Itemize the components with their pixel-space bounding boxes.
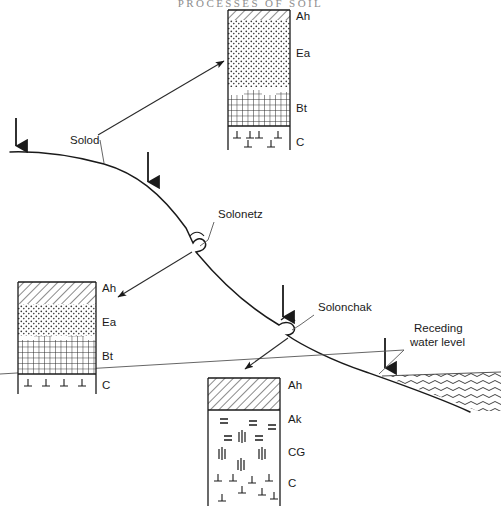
soil-catena-diagram: Solod Solonetz Solonchak Receding water … <box>0 0 501 518</box>
profile2-horizon-label-bt: Bt <box>102 350 114 362</box>
label-solonchak: Solonchak <box>318 301 372 313</box>
profile3-horizon-label-ak: Ak <box>288 413 302 425</box>
connector-to-solonchak-profile <box>245 338 288 369</box>
profile3-horizon-label-ah: Ah <box>288 379 302 391</box>
connector-to-solonetz-profile <box>118 252 192 297</box>
receding-water-body <box>382 372 501 411</box>
profile1-horizon-label-bt: Bt <box>296 102 308 114</box>
profile1-horizon-label-ea: Ea <box>296 47 311 59</box>
callout-lines <box>0 140 404 374</box>
profile2-horizon-label-c: C <box>102 379 110 391</box>
profile1-horizon-label-c: C <box>296 136 304 148</box>
profile-solod-upper: Ah Ea Bt C <box>228 10 311 150</box>
profile2-horizon-label-ah: Ah <box>102 282 116 294</box>
callout-solod <box>100 140 104 163</box>
profile2-horizon-label-ea: Ea <box>102 316 117 328</box>
connector-to-solod-profile <box>98 61 224 135</box>
profile-solonchak-lower: Ah Ak CG C <box>208 378 305 506</box>
label-solod: Solod <box>70 134 99 146</box>
callout-solonchak <box>292 315 314 330</box>
profile-solonetz-left: Ah Ea Bt C <box>18 282 117 394</box>
label-receding-water-line1: Receding <box>414 322 463 334</box>
profile1-horizon-label-ah: Ah <box>296 10 310 22</box>
profile3-horizon-label-cg: CG <box>288 446 305 458</box>
label-receding-water-line2: water level <box>409 336 465 348</box>
profile3-horizon-label-c: C <box>288 477 296 489</box>
label-solonetz: Solonetz <box>218 208 263 220</box>
